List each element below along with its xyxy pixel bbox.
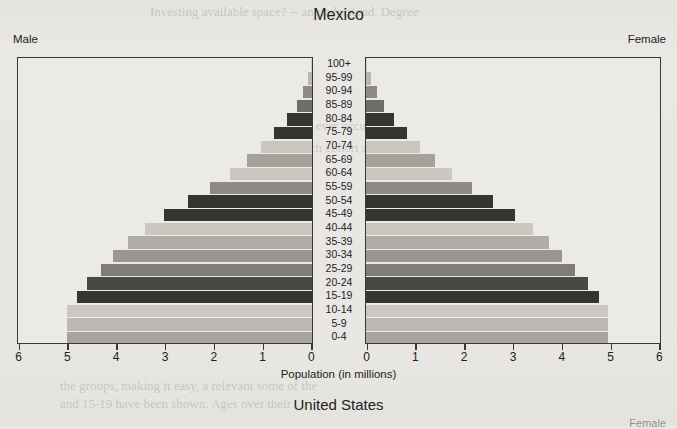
bar-row (366, 72, 660, 86)
bar-row (366, 208, 660, 222)
pyramid-bar (366, 318, 608, 330)
bar-row (18, 222, 312, 236)
bar-row (18, 318, 312, 332)
bar-row (366, 304, 660, 318)
bar-row (366, 140, 660, 154)
age-group-label: 80-84 (313, 112, 365, 126)
pyramid-bar (164, 209, 312, 221)
pyramid-bar (366, 59, 367, 71)
bar-row (18, 167, 312, 181)
age-group-label: 100+ (313, 57, 365, 71)
axis-tick-label: 0 (363, 350, 370, 364)
bar-row (366, 181, 660, 195)
pyramid-bar (87, 277, 312, 289)
bar-row (366, 222, 660, 236)
bar-row (366, 85, 660, 99)
bar-row (18, 113, 312, 127)
pyramid-bar (366, 250, 562, 262)
bar-row (18, 99, 312, 113)
pyramid-bar (287, 113, 312, 125)
pyramid-bar (366, 264, 575, 276)
age-group-label: 45-49 (313, 207, 365, 221)
age-group-label: 55-59 (313, 180, 365, 194)
axis-tick-label: 6 (15, 350, 22, 364)
age-group-label: 70-74 (313, 139, 365, 153)
age-group-label: 35-39 (313, 235, 365, 249)
axis-tick-label: 3 (162, 350, 169, 364)
pyramid-bar (128, 236, 312, 248)
pyramid-bar (247, 154, 312, 166)
female-x-axis: 0123456 (365, 344, 661, 364)
axis-tick-label: 6 (656, 350, 663, 364)
next-chart-female-label: Female (629, 417, 666, 429)
pyramid-bar (366, 291, 599, 303)
pyramid-bar (366, 154, 435, 166)
pyramid-bar (366, 127, 407, 139)
pyramid-bar (67, 318, 312, 330)
age-group-label: 90-94 (313, 84, 365, 98)
bar-row (18, 208, 312, 222)
axis-tick-label: 4 (558, 350, 565, 364)
bar-row (366, 58, 660, 72)
bar-row (18, 195, 312, 209)
pyramid-bar (308, 72, 312, 84)
age-group-label: 20-24 (313, 276, 365, 290)
bar-row (18, 249, 312, 263)
pyramid-bar (274, 127, 312, 139)
pyramid-bar (366, 223, 533, 235)
age-group-label: 60-64 (313, 166, 365, 180)
bar-row (18, 277, 312, 291)
age-group-label: 10-14 (313, 303, 365, 317)
bar-row (366, 236, 660, 250)
bar-row (18, 58, 312, 72)
pyramid-bar (366, 209, 515, 221)
pyramid-bar (303, 86, 312, 98)
bar-row (18, 304, 312, 318)
axis-tick-label: 2 (210, 350, 217, 364)
pyramid-bar (77, 291, 312, 303)
male-plot-area (17, 57, 313, 344)
pyramid-bar (366, 182, 472, 194)
age-group-axis: 100+95-9990-9485-8980-8475-7970-7465-696… (313, 57, 365, 344)
x-axis-caption: Population (in millions) (0, 368, 677, 380)
bar-row (18, 140, 312, 154)
axis-tick-label: 4 (113, 350, 120, 364)
bar-row (18, 290, 312, 304)
age-group-label: 25-29 (313, 262, 365, 276)
pyramid-bar (366, 332, 608, 344)
age-group-label: 30-34 (313, 248, 365, 262)
bar-row (366, 154, 660, 168)
bar-row (18, 181, 312, 195)
age-group-label: 15-19 (313, 289, 365, 303)
bar-row (366, 263, 660, 277)
male-panel-label: Male (13, 33, 38, 45)
bar-row (366, 277, 660, 291)
pyramid-bar (67, 305, 312, 317)
pyramid-bar (366, 141, 420, 153)
age-group-label: 40-44 (313, 221, 365, 235)
bar-row (18, 236, 312, 250)
pyramid-bar (145, 223, 312, 235)
pyramid-bar (230, 168, 312, 180)
pyramid-bar (366, 72, 371, 84)
pyramid-bar (261, 141, 312, 153)
pyramid-bar (210, 182, 312, 194)
pyramid-bar (366, 168, 452, 180)
female-panel-label: Female (628, 33, 666, 45)
age-group-label: 5-9 (313, 317, 365, 331)
pyramid-bar (366, 86, 377, 98)
bar-row (18, 72, 312, 86)
pyramid-bar (366, 195, 493, 207)
next-chart-title: United States (0, 396, 677, 413)
axis-tick-label: 0 (308, 350, 315, 364)
pyramid-bar (366, 113, 394, 125)
pyramid-bar (366, 100, 384, 112)
bar-row (18, 154, 312, 168)
pyramid-bar (366, 305, 608, 317)
pyramid-bar (67, 332, 312, 344)
bar-row (366, 113, 660, 127)
bar-row (366, 99, 660, 113)
axis-tick-label: 1 (412, 350, 419, 364)
bar-row (366, 318, 660, 332)
